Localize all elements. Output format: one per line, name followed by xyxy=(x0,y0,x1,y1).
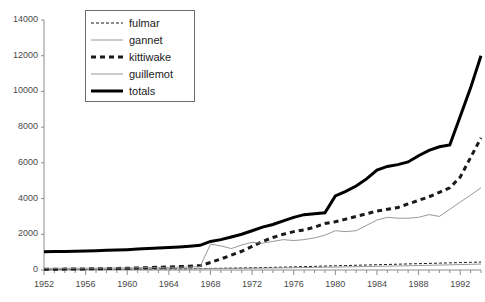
x-tick-label: 1952 xyxy=(24,280,64,289)
y-tick-label: 8000 xyxy=(18,122,38,131)
x-tick-label: 1960 xyxy=(107,280,147,289)
x-tick-label: 1972 xyxy=(232,280,272,289)
legend-item-gannet: gannet xyxy=(86,31,194,48)
legend-label: guillemot xyxy=(129,68,173,80)
x-tick-label: 1976 xyxy=(274,280,314,289)
legend-item-kittiwake: kittiwake xyxy=(86,48,194,65)
x-tick-label: 1968 xyxy=(190,280,230,289)
x-tick-label: 1984 xyxy=(357,280,397,289)
line-chart: 02000400060008000100001200014000 1952195… xyxy=(0,0,485,302)
y-tick-label: 6000 xyxy=(18,158,38,167)
y-tick-label: 2000 xyxy=(18,229,38,238)
y-tick-label: 10000 xyxy=(13,86,38,95)
x-tick-label: 1980 xyxy=(315,280,355,289)
legend-swatch-totals xyxy=(90,85,124,97)
x-tick-label: 1988 xyxy=(399,280,439,289)
legend-item-guillemot: guillemot xyxy=(86,65,194,82)
legend-label: totals xyxy=(129,85,155,97)
legend-item-totals: totals xyxy=(86,82,194,99)
legend-swatch-gannet xyxy=(90,34,124,46)
y-tick-label: 12000 xyxy=(13,51,38,60)
x-tick-label: 1956 xyxy=(66,280,106,289)
legend-swatch-guillemot xyxy=(90,68,124,80)
legend-swatch-kittiwake xyxy=(90,51,124,63)
x-tick-label: 1992 xyxy=(440,280,480,289)
x-tick-label: 1964 xyxy=(149,280,189,289)
y-tick-label: 0 xyxy=(33,265,38,274)
y-tick-label: 14000 xyxy=(13,15,38,24)
legend-item-fulmar: fulmar xyxy=(86,14,194,31)
legend-label: kittiwake xyxy=(129,51,171,63)
chart-legend: fulmargannetkittiwakeguillemottotals xyxy=(85,10,195,102)
y-tick-label: 4000 xyxy=(18,194,38,203)
legend-label: fulmar xyxy=(129,17,160,29)
legend-label: gannet xyxy=(129,34,163,46)
legend-swatch-fulmar xyxy=(90,17,124,29)
plot-area xyxy=(0,0,485,302)
